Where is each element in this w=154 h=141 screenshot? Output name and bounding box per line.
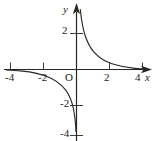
y-tick-label-2: 2 <box>62 25 68 36</box>
x-tick-label-4: 4 <box>135 72 141 83</box>
x-tick-label-2: 2 <box>104 72 110 83</box>
y-tick-label-minus-2: -2 <box>60 98 69 109</box>
y-axis <box>73 3 80 141</box>
hyperbola-plot <box>0 0 154 141</box>
y-tick-label-minus-4: -4 <box>60 128 69 139</box>
y-axis-label: y <box>63 4 68 15</box>
x-axis-label: x <box>145 72 150 83</box>
x-tick-label-minus-2: -2 <box>38 72 47 83</box>
graph-figure: -4 -2 O 2 4 x 2 -2 -4 y <box>0 0 154 141</box>
curve-branch-positive <box>80 10 146 70</box>
origin-label: O <box>65 72 73 83</box>
x-tick-label-minus-4: -4 <box>5 72 14 83</box>
